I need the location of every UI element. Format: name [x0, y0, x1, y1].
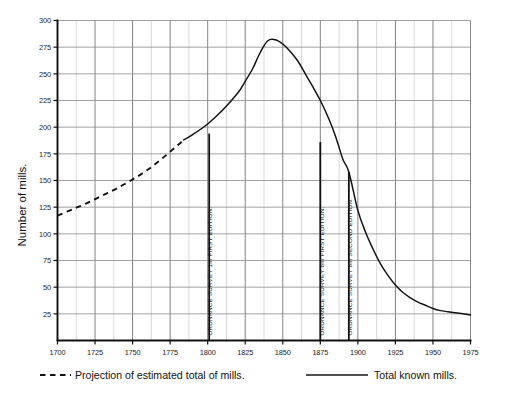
x-tick-label: 1750 [125, 348, 141, 357]
y-tick-label: 75 [43, 256, 51, 265]
x-tick-label: 1900 [350, 348, 366, 357]
x-tick-label: 1825 [237, 348, 253, 357]
y-tick-label: 300 [39, 16, 51, 25]
x-tick-label: 1725 [87, 348, 103, 357]
annotation-label: ORDNANCE SURVEY 1in FIRST EDITION. [206, 207, 213, 336]
y-tick-label: 100 [39, 230, 51, 239]
y-tick-label: 25 [43, 310, 51, 319]
annotation-label: ORDNANCE SURVEY 6in SECOND EDITION. [346, 198, 353, 336]
y-tick-label: 50 [43, 283, 51, 292]
y-axis-title: Number of mills. [16, 163, 28, 246]
y-tick-label: 150 [39, 176, 51, 185]
x-tick-label: 1700 [50, 348, 66, 357]
x-tick-label: 1875 [312, 348, 328, 357]
y-tick-label: 225 [39, 96, 51, 105]
y-tick-label: 275 [39, 43, 51, 52]
y-tick-label: 250 [39, 70, 51, 79]
x-tick-label: 1950 [425, 348, 441, 357]
x-tick-label: 1800 [200, 348, 216, 357]
y-tick-label: 200 [39, 123, 51, 132]
x-tick-label: 1775 [162, 348, 178, 357]
legend-label-known: Total known mills. [374, 369, 457, 381]
x-tick-label: 1850 [275, 348, 291, 357]
x-tick-label: 1975 [463, 348, 479, 357]
y-tick-label: 125 [39, 203, 51, 212]
y-tick-label: 175 [39, 150, 51, 159]
legend-label-projection: Projection of estimated total of mills. [75, 369, 245, 381]
mills-line-chart: 255075100125150175200225250275300 170017… [0, 0, 509, 399]
chart-canvas: 255075100125150175200225250275300 170017… [0, 0, 509, 399]
annotation-label: ORDNANCE SURVEY 6in FIRST EDITION. [318, 207, 325, 336]
y-axis-title-text: Number of mills. [16, 163, 28, 246]
x-tick-label: 1925 [387, 348, 403, 357]
